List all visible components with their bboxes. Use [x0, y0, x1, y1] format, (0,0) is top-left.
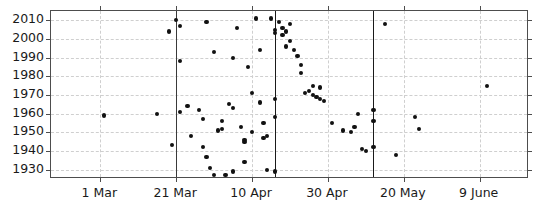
- x-axis-tick-label: 10 Apr: [230, 187, 272, 200]
- cherry-blossom-scatter-chart: 193019401950196019701980199020002010 1 M…: [0, 0, 554, 209]
- x-axis-tick-label: 21 Mar: [153, 187, 196, 200]
- x-axis-labels: 1 Mar21 Mar10 Apr30 Apr20 May9 June: [0, 0, 554, 209]
- x-axis-tick-label: 1 Mar: [82, 187, 118, 200]
- x-axis-tick-label: 9 June: [459, 187, 498, 200]
- x-axis-tick-label: 30 Apr: [306, 187, 348, 200]
- x-axis-tick-label: 20 May: [380, 187, 426, 200]
